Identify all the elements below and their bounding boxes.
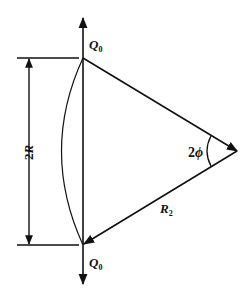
radius-r2-line	[84, 151, 237, 244]
shell-force-diagram: Q0 Q0 2R 2ϕ R2	[0, 0, 249, 298]
upper-radius-line	[83, 58, 237, 151]
label-2r: 2R	[21, 145, 36, 161]
label-q0-bottom: Q0	[89, 255, 102, 272]
label-q0-top: Q0	[89, 37, 102, 54]
label-r2: R2	[159, 201, 173, 218]
angle-arc	[207, 136, 211, 166]
label-2phi: 2ϕ	[188, 145, 203, 160]
shell-arc	[62, 58, 84, 245]
